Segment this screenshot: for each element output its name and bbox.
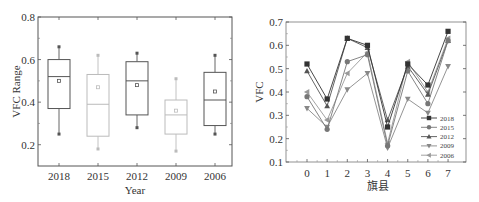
y-tick-label: 0.3 xyxy=(269,109,283,121)
x-tick-label: 3 xyxy=(365,167,371,179)
line-chart: 0.10.20.30.40.50.60.70123456720182015201… xyxy=(253,16,466,192)
legend-item-2012: 2012 xyxy=(421,133,455,141)
max-marker xyxy=(136,52,139,55)
legend-label: 2018 xyxy=(440,115,455,123)
x-tick-label: 0 xyxy=(304,167,310,179)
square-marker-icon xyxy=(445,29,450,34)
max-marker xyxy=(58,45,61,48)
x-tick-label: 5 xyxy=(405,167,411,179)
x-tick-label: 2006 xyxy=(204,170,227,182)
triangle-up-marker-icon xyxy=(324,103,330,108)
y-tick-label: 0.6 xyxy=(21,54,35,66)
square-marker-icon xyxy=(425,82,430,87)
y-axis-title: VFC xyxy=(253,81,265,102)
square-marker-icon xyxy=(365,43,370,48)
square-marker-icon xyxy=(385,124,390,129)
legend-item-2018: 2018 xyxy=(421,115,455,123)
iqr-box xyxy=(48,60,70,109)
legend-item-2015: 2015 xyxy=(421,124,455,132)
x-tick-label: 4 xyxy=(385,167,391,179)
y-tick-label: 0.6 xyxy=(269,39,283,51)
circle-marker-icon xyxy=(345,59,350,64)
x-tick-label: 1 xyxy=(324,167,330,179)
min-marker xyxy=(175,150,178,153)
x-axis-title: 旗县 xyxy=(367,179,389,192)
min-marker xyxy=(97,147,100,150)
legend-label: 2012 xyxy=(440,133,455,141)
legend-label: 2006 xyxy=(440,152,455,160)
y-tick-label: 0.4 xyxy=(269,86,283,98)
legend: 20182015201220092006 xyxy=(421,115,455,160)
x-tick-label: 2 xyxy=(345,167,351,179)
y-tick-label: 0.4 xyxy=(21,96,35,108)
iqr-box xyxy=(87,74,109,136)
triangle-left-marker-icon xyxy=(426,153,431,158)
box-2006 xyxy=(204,54,226,136)
circle-marker-icon xyxy=(425,101,430,106)
x-tick-label: 6 xyxy=(425,167,431,179)
y-tick-label: 0.7 xyxy=(269,16,283,28)
box-2018 xyxy=(48,45,70,135)
max-marker xyxy=(214,54,217,57)
square-marker-icon xyxy=(427,116,431,120)
x-tick-label: 7 xyxy=(445,167,451,179)
circle-marker-icon xyxy=(325,127,330,132)
square-marker-icon xyxy=(325,96,330,101)
square-marker-icon xyxy=(304,61,309,66)
circle-marker-icon xyxy=(427,125,431,129)
triangle-left-marker-icon xyxy=(304,89,309,95)
triangle-down-marker-icon xyxy=(445,64,451,69)
y-tick-label: 0.5 xyxy=(269,63,283,75)
x-axis-title: Year xyxy=(125,184,146,196)
triangle-down-marker-icon xyxy=(365,71,371,76)
legend-label: 2009 xyxy=(440,142,455,150)
figure: 0.20.40.60.820182015201220092006YearVFC … xyxy=(0,0,479,202)
triangle-down-marker-icon xyxy=(405,97,411,102)
min-marker xyxy=(58,133,61,136)
max-marker xyxy=(97,54,100,57)
legend-label: 2015 xyxy=(440,124,455,132)
circle-marker-icon xyxy=(304,94,309,99)
x-tick-label: 2018 xyxy=(48,170,71,182)
circle-marker-icon xyxy=(385,143,390,148)
box-2015 xyxy=(87,54,109,151)
triangle-down-marker-icon xyxy=(344,87,350,92)
max-marker xyxy=(175,77,178,80)
y-tick-label: 0.2 xyxy=(21,139,35,151)
iqr-box xyxy=(165,100,187,134)
x-tick-label: 2012 xyxy=(126,170,148,182)
square-marker-icon xyxy=(345,36,350,41)
y-tick-label: 0.2 xyxy=(269,133,283,145)
y-tick-label: 0.1 xyxy=(269,156,283,168)
triangle-up-marker-icon xyxy=(304,68,310,73)
triangle-down-marker-icon xyxy=(425,111,431,116)
min-marker xyxy=(136,126,139,129)
iqr-box xyxy=(126,62,148,115)
x-tick-label: 2009 xyxy=(165,170,188,182)
min-marker xyxy=(214,133,217,136)
y-axis-title: VFC Range xyxy=(10,65,22,117)
triangle-left-marker-icon xyxy=(324,117,329,123)
square-marker-icon xyxy=(405,61,410,66)
iqr-box xyxy=(204,72,226,125)
y-tick-label: 0.8 xyxy=(21,11,35,23)
legend-item-2009: 2009 xyxy=(421,142,455,150)
legend-item-2006: 2006 xyxy=(421,152,455,160)
box-plot-chart: 0.20.40.60.820182015201220092006YearVFC … xyxy=(10,11,232,196)
x-tick-label: 2015 xyxy=(87,170,110,182)
box-2012 xyxy=(126,52,148,130)
circle-marker-icon xyxy=(445,38,450,43)
box-2009 xyxy=(165,77,187,152)
